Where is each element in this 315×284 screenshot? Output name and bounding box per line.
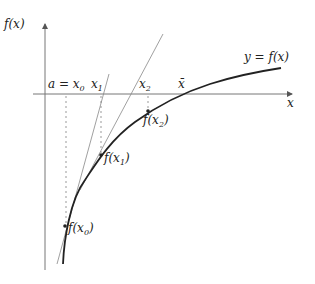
y-axis-label: f(x) (3, 17, 25, 31)
newton-method-diagram: f(x) x y = f(x) a = x0 x1 x2 x̄ f(x0) f(… (0, 0, 315, 284)
x-axis-label: x (287, 96, 294, 110)
curve-label: y = f(x) (243, 50, 289, 64)
x0-label: a = x0 (48, 77, 85, 93)
point-fx1 (99, 153, 103, 157)
xbar-label: x̄ (178, 77, 185, 91)
fx1-label: f(x1) (103, 151, 130, 167)
x1-label: x1 (91, 77, 103, 93)
fx0-label: f(x0) (67, 221, 94, 237)
function-curve (63, 68, 281, 264)
point-fx0 (63, 224, 67, 228)
x2-label: x2 (139, 77, 151, 93)
fx2-label: f(x2) (142, 113, 169, 129)
